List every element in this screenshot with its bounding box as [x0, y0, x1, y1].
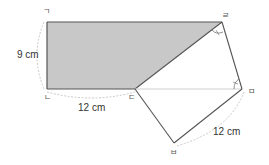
segment-b-d [135, 89, 174, 143]
angle-mark-m [234, 79, 239, 89]
dim-arc-right [177, 92, 244, 146]
dim-label-right: 12 cm [213, 126, 240, 137]
vertex-label-r: ㄹ [222, 11, 229, 20]
angle-tick-r [216, 30, 219, 35]
vertex-label-m: ㅁ [248, 87, 255, 96]
vertex-label-b: ㅂ [170, 148, 177, 157]
dim-label-bottom: 12 cm [78, 102, 105, 113]
geometry-figure: ㄱ ㄴ ㄷ ㄹ ㅁ ㅂ 9 cm 12 cm 12 cm [0, 0, 269, 165]
vertex-label-d: ㄷ [128, 93, 135, 102]
vertex-label-n: ㄴ [44, 93, 51, 102]
dim-arc-bottom [47, 92, 135, 98]
shaded-region [47, 22, 222, 89]
dim-label-left: 9 cm [17, 49, 39, 60]
segment-r-m [222, 22, 242, 89]
vertex-label-g: ㄱ [43, 7, 50, 16]
